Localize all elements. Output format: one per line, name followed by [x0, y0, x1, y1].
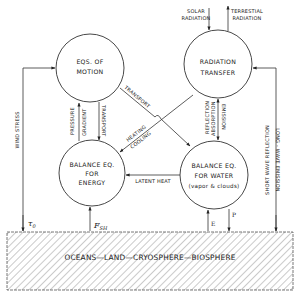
ground-surface-box: OCEANS—LAND—CRYOSPHERE—BIOSPHERE	[7, 232, 293, 290]
pressure-gradient-arrow: PRESSURE GRADIENT	[69, 103, 87, 141]
svg-text:SOLAR: SOLAR	[187, 8, 205, 14]
precipitation-arrow: P	[229, 209, 236, 231]
node-eqs-of-motion: EQS. OF MOTION	[56, 34, 124, 102]
shortwave-longwave-loop: SHORT WAVE REFLECTION LONG - WAVE EMISSI…	[253, 68, 281, 231]
node-balance-water: BALANCE EQ. FOR WATER (vapor & clouds)	[180, 141, 248, 209]
svg-text:LATENT HEAT: LATENT HEAT	[135, 178, 171, 184]
latent-heat-arrow: LATENT HEAT	[126, 175, 180, 184]
heating-cooling-arrow: HEATING COOLING	[120, 95, 193, 152]
svg-text:TERRESTIAL: TERRESTIAL	[230, 8, 263, 14]
svg-text:RADIATION: RADIATION	[232, 15, 261, 21]
node-radiation-transfer: RADIATION TRANSFER	[184, 30, 252, 98]
transport-down-arrow: TRANSPORT	[99, 102, 107, 140]
svg-text:GRADIENT: GRADIENT	[81, 108, 87, 136]
node-motion-line2: MOTION	[76, 68, 103, 75]
node-radiation-line1: RADIATION	[200, 58, 236, 65]
sensible-heat-flux-arrow: FSH	[90, 207, 108, 231]
svg-text:ABSORPTION: ABSORPTION	[210, 101, 216, 136]
reflection-absorption-emission-arrow: REFLECTION ABSORPTION EMISSION	[204, 99, 227, 140]
node-water-line2: FOR WATER	[195, 172, 234, 179]
wind-stress-loop: WIND STRESS τ0	[14, 68, 55, 231]
ground-label: OCEANS—LAND—CRYOSPHERE—BIOSPHERE	[64, 253, 235, 262]
f-sh-symbol: FSH	[93, 221, 108, 231]
svg-text:EMISSION: EMISSION	[221, 104, 227, 130]
svg-text:E: E	[211, 220, 215, 227]
terrestrial-radiation-arrow: TERRESTIAL RADIATION	[228, 6, 263, 31]
svg-text:WIND STRESS: WIND STRESS	[14, 111, 20, 148]
svg-text:PRESSURE: PRESSURE	[69, 107, 75, 135]
svg-text:TRANSPORT: TRANSPORT	[101, 104, 107, 137]
tau-symbol: τ0	[28, 219, 36, 229]
node-energy-line3: ENERGY	[79, 179, 106, 186]
svg-text:SHORT WAVE REFLECTION: SHORT WAVE REFLECTION	[264, 125, 270, 195]
solar-radiation-arrow: SOLAR RADIATION	[181, 8, 210, 30]
svg-text:LONG - WAVE EMISSION: LONG - WAVE EMISSION	[275, 128, 281, 192]
node-water-line1: BALANCE EQ.	[191, 162, 236, 169]
node-energy-line1: BALANCE EQ.	[69, 161, 114, 168]
svg-text:RADIATION: RADIATION	[181, 15, 210, 21]
node-water-line3: (vapor & clouds)	[188, 183, 239, 190]
svg-text:P: P	[232, 211, 236, 218]
node-balance-energy: BALANCE EQ. FOR ENERGY	[59, 140, 125, 206]
node-energy-line2: FOR	[85, 170, 99, 177]
evaporation-arrow: E	[208, 210, 215, 231]
climate-system-diagram: OCEANS—LAND—CRYOSPHERE—BIOSPHERE EQS. OF…	[0, 0, 299, 301]
node-radiation-line2: TRANSFER	[200, 69, 236, 76]
svg-text:TRANSPORT: TRANSPORT	[123, 84, 152, 110]
node-motion-line1: EQS. OF	[76, 58, 103, 65]
